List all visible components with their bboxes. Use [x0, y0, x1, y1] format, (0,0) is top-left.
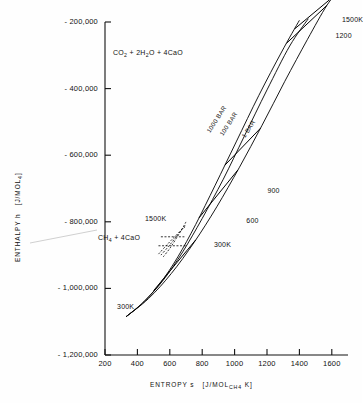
isotherm-layer [154, 0, 335, 291]
annotation-reactants-formula: CH4 + 4CaO [98, 234, 140, 243]
y-tick-label: - 800,000 [30, 217, 98, 226]
isotherm-label-600: 600 [246, 217, 258, 224]
isotherm-label-900: 900 [267, 187, 279, 194]
lower-label-1500K: 1500K [145, 215, 166, 222]
x-tick-label: 1400 [285, 359, 313, 368]
y-tick-label: - 400,000 [30, 84, 98, 93]
x-axis-title: ENTROPY s [J/MOLCH4 K] [150, 381, 253, 390]
x-tick-label: 600 [156, 359, 184, 368]
x-tick-label: 1200 [253, 359, 281, 368]
lower-dashed-curve [159, 227, 186, 254]
y-tick-label: - 200,000 [30, 17, 98, 26]
y-tick-label: - 600,000 [30, 150, 98, 159]
annotation-products-formula: CO2 + 2H2O + 4CaO [113, 49, 183, 58]
x-tick-label: 1000 [221, 359, 249, 368]
y-tick-label: - 1,200,000 [30, 350, 98, 359]
x-tick-label: 200 [91, 359, 119, 368]
leader-line [30, 230, 97, 243]
isotherm-line-300K [154, 240, 196, 291]
isotherm-label-300K: 300K [214, 241, 231, 248]
isobar-curve [126, 19, 308, 317]
isotherm-line-1200 [286, 5, 327, 43]
y-axis-title: ENTHALPY h [J/MOL4] [14, 172, 23, 262]
x-tick-label: 1600 [318, 359, 346, 368]
isotherm-line-1500K [295, 0, 336, 29]
x-tick-label: 800 [188, 359, 216, 368]
lower-label-300K: 300K [117, 303, 134, 310]
isotherm-label-1500K: 1500K [342, 16, 363, 23]
curve-series-layer [126, 0, 341, 317]
lower-dashed-family [158, 222, 186, 257]
isotherm-label-1200: 1200 [335, 32, 351, 39]
isobar-curve [126, 20, 299, 316]
x-tick-label: 400 [123, 359, 151, 368]
isotherm-line-600 [199, 170, 238, 218]
y-tick-label: - 1,000,000 [30, 283, 98, 292]
